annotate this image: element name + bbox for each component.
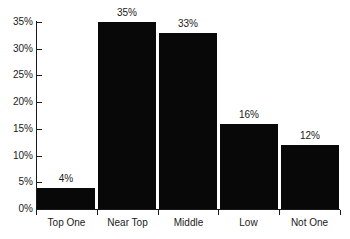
bar bbox=[37, 188, 95, 209]
y-axis-tick-label: 10% bbox=[0, 151, 33, 161]
x-axis-tick bbox=[36, 210, 37, 215]
bar-value-label: 4% bbox=[37, 174, 95, 184]
x-axis-tick bbox=[279, 210, 280, 215]
x-axis-tick bbox=[340, 210, 341, 215]
bar-value-label: 35% bbox=[98, 8, 156, 18]
x-axis-category-label: Top One bbox=[36, 217, 97, 228]
y-axis-tick-label: 25% bbox=[0, 70, 33, 80]
bar-value-label: 12% bbox=[281, 131, 339, 141]
bar bbox=[159, 33, 217, 209]
y-axis-tick bbox=[37, 209, 42, 210]
x-axis-tick bbox=[158, 210, 159, 215]
x-axis-category-label: Near Top bbox=[97, 217, 158, 228]
y-axis-tick bbox=[37, 75, 42, 76]
bar-value-label: 16% bbox=[220, 110, 278, 120]
bar bbox=[220, 124, 278, 209]
x-axis-category-label: Not One bbox=[279, 217, 340, 228]
y-axis-tick-label: 35% bbox=[0, 17, 33, 27]
y-axis-tick-label: 15% bbox=[0, 124, 33, 134]
y-axis-tick bbox=[37, 22, 42, 23]
y-axis-tick bbox=[37, 156, 42, 157]
x-axis-tick bbox=[97, 210, 98, 215]
y-axis-tick-label: 0% bbox=[0, 204, 33, 214]
y-axis-tick-label: 5% bbox=[0, 177, 33, 187]
x-axis-line bbox=[36, 209, 340, 210]
bar bbox=[281, 145, 339, 209]
x-axis-tick bbox=[218, 210, 219, 215]
y-axis-tick bbox=[37, 129, 42, 130]
x-axis-category-label: Middle bbox=[158, 217, 219, 228]
y-axis-tick bbox=[37, 102, 42, 103]
x-axis-category-label: Low bbox=[218, 217, 279, 228]
bar-value-label: 33% bbox=[159, 19, 217, 29]
bar-chart: 0%5%10%15%20%25%30%35% 4%Top One35%Near … bbox=[0, 0, 350, 239]
y-axis-tick-label: 20% bbox=[0, 97, 33, 107]
bar bbox=[98, 22, 156, 209]
y-axis-tick bbox=[37, 49, 42, 50]
y-axis-tick-label: 30% bbox=[0, 44, 33, 54]
